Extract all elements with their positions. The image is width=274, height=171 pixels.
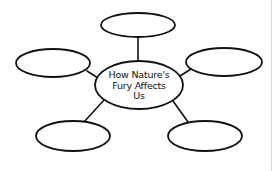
- satellite-ellipse-top: [101, 13, 175, 37]
- center-label-line-3: Us: [95, 91, 183, 102]
- concept-web-diagram: How Nature's Fury Affects Us: [0, 0, 274, 171]
- satellite-ellipse-bottom-left: [36, 121, 110, 151]
- connector-bottom-right: [173, 101, 188, 122]
- connector-bottom-left: [84, 100, 104, 122]
- satellite-ellipse-right: [186, 48, 262, 76]
- satellite-ellipse-bottom-right: [168, 121, 242, 151]
- satellite-ellipse-left: [16, 49, 90, 77]
- center-label-line-1: How Nature's: [95, 70, 183, 81]
- frame-edge-divider: [271, 0, 272, 171]
- center-topic-label: How Nature's Fury Affects Us: [95, 70, 183, 102]
